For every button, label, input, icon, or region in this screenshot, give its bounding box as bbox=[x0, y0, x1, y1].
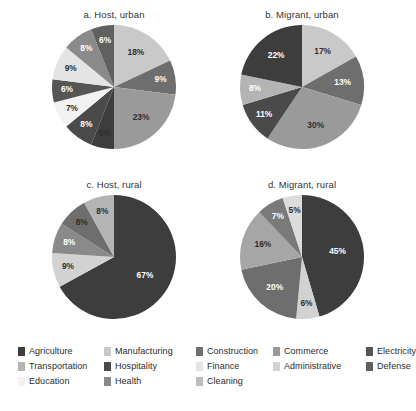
pie-panel-a: a. Host, urban 18%9%23%6%8%7%6%9%8%6% bbox=[24, 6, 204, 176]
pie-panel-b: b. Migrant, urban 17%13%30%11%8%22% bbox=[212, 6, 392, 176]
legend-item-defense[interactable]: Defense bbox=[366, 359, 411, 373]
chart-legend: AgricultureManufacturingConstructionComm… bbox=[18, 344, 410, 394]
legend-row: AgricultureManufacturingConstructionComm… bbox=[18, 344, 410, 358]
pie-slice-label: 20% bbox=[266, 282, 283, 292]
legend-swatch-icon bbox=[273, 362, 280, 371]
legend-swatch-icon bbox=[18, 347, 25, 356]
pie-panels-grid: a. Host, urban 18%9%23%6%8%7%6%9%8%6% b.… bbox=[0, 0, 413, 340]
pie-slice-label: 8% bbox=[76, 217, 89, 227]
legend-item-label: Education bbox=[29, 377, 69, 386]
pie-slice-label: 8% bbox=[96, 206, 109, 216]
pie-slice-label: 8% bbox=[249, 83, 262, 93]
pie-slice-label: 7% bbox=[66, 103, 79, 113]
legend-item-electricity[interactable]: Electricity bbox=[366, 344, 416, 358]
pie-slice-label: 22% bbox=[268, 50, 285, 60]
legend-item-label: Administrative bbox=[284, 362, 341, 371]
pie-slice-label: 9% bbox=[154, 74, 167, 84]
legend-item-label: Hospitality bbox=[115, 362, 157, 371]
panel-b-title: b. Migrant, urban bbox=[212, 9, 392, 20]
legend-item-construction[interactable]: Construction bbox=[196, 344, 258, 358]
legend-item-agriculture[interactable]: Agriculture bbox=[18, 344, 73, 358]
legend-swatch-icon bbox=[196, 362, 203, 371]
legend-row: TransportationHospitalityFinanceAdminist… bbox=[18, 359, 410, 373]
legend-swatch-icon bbox=[104, 362, 111, 371]
pie-slice-label: 9% bbox=[62, 261, 75, 271]
legend-swatch-icon bbox=[18, 362, 25, 371]
legend-swatch-icon bbox=[104, 347, 111, 356]
pie-slice-label: 8% bbox=[63, 237, 76, 247]
pie-slice-label: 7% bbox=[272, 211, 285, 221]
legend-swatch-icon bbox=[273, 347, 280, 356]
legend-swatch-icon bbox=[196, 347, 203, 356]
legend-item-label: Agriculture bbox=[29, 347, 73, 356]
legend-swatch-icon bbox=[18, 377, 25, 386]
pie-a: 18%9%23%6%8%7%6%9%8%6% bbox=[50, 23, 178, 151]
legend-swatch-icon bbox=[104, 377, 111, 386]
pie-slice-label: 18% bbox=[128, 47, 145, 57]
legend-item-commerce[interactable]: Commerce bbox=[273, 344, 328, 358]
panel-a-title: a. Host, urban bbox=[24, 9, 204, 20]
pie-slice-label: 8% bbox=[80, 43, 93, 53]
pie-slice-label: 23% bbox=[133, 112, 150, 122]
pie-b: 17%13%30%11%8%22% bbox=[238, 23, 366, 151]
legend-item-label: Health bbox=[115, 377, 141, 386]
legend-item-transportation[interactable]: Transportation bbox=[18, 359, 87, 373]
pie-slice-label: 6% bbox=[300, 298, 313, 308]
legend-item-health[interactable]: Health bbox=[104, 374, 141, 388]
pie-d: 45%6%20%16%7%5% bbox=[238, 193, 366, 321]
pie-slice-label: 9% bbox=[65, 63, 78, 73]
pie-c: 67%9%8%8%8% bbox=[50, 193, 178, 321]
pie-d-svg: 45%6%20%16%7%5% bbox=[238, 193, 366, 321]
pie-slice-label: 13% bbox=[334, 77, 351, 87]
legend-item-label: Defense bbox=[377, 362, 411, 371]
pie-slice-label: 8% bbox=[80, 119, 93, 129]
pie-slice-label: 45% bbox=[329, 246, 346, 256]
pie-slice-label: 16% bbox=[255, 239, 272, 249]
pie-c-slices bbox=[52, 195, 176, 319]
pie-panel-d: d. Migrant, rural 45%6%20%16%7%5% bbox=[212, 176, 392, 346]
pie-slice-label: 6% bbox=[61, 84, 74, 94]
legend-item-label: Cleaning bbox=[207, 377, 243, 386]
pie-slice-label: 30% bbox=[307, 120, 324, 130]
pie-slice-label: 11% bbox=[256, 109, 273, 119]
legend-item-administrative[interactable]: Administrative bbox=[273, 359, 341, 373]
pie-slice-label: 6% bbox=[99, 35, 112, 45]
legend-item-label: Finance bbox=[207, 362, 239, 371]
legend-item-label: Electricity bbox=[377, 347, 416, 356]
pie-slice-label: 17% bbox=[314, 46, 331, 56]
pie-c-svg: 67%9%8%8%8% bbox=[50, 193, 178, 321]
legend-item-hospitality[interactable]: Hospitality bbox=[104, 359, 157, 373]
legend-item-manufacturing[interactable]: Manufacturing bbox=[104, 344, 173, 358]
pie-a-svg: 18%9%23%6%8%7%6%9%8%6% bbox=[50, 23, 178, 151]
legend-row: EducationHealthCleaning bbox=[18, 374, 410, 388]
legend-item-label: Construction bbox=[207, 347, 258, 356]
legend-swatch-icon bbox=[366, 347, 373, 356]
legend-item-cleaning[interactable]: Cleaning bbox=[196, 374, 243, 388]
panel-d-title: d. Migrant, rural bbox=[212, 179, 392, 190]
legend-item-label: Manufacturing bbox=[115, 347, 173, 356]
legend-item-finance[interactable]: Finance bbox=[196, 359, 239, 373]
legend-item-label: Commerce bbox=[284, 347, 328, 356]
pie-slice-label: 5% bbox=[288, 205, 301, 215]
pie-slice-label: 6% bbox=[99, 128, 112, 138]
legend-swatch-icon bbox=[196, 377, 203, 386]
legend-item-label: Transportation bbox=[29, 362, 87, 371]
pie-b-svg: 17%13%30%11%8%22% bbox=[238, 23, 366, 151]
legend-item-education[interactable]: Education bbox=[18, 374, 69, 388]
pie-panel-c: c. Host, rural 67%9%8%8%8% bbox=[24, 176, 204, 346]
panel-c-title: c. Host, rural bbox=[24, 179, 204, 190]
legend-swatch-icon bbox=[366, 362, 373, 371]
pie-slice-label: 67% bbox=[137, 270, 154, 280]
